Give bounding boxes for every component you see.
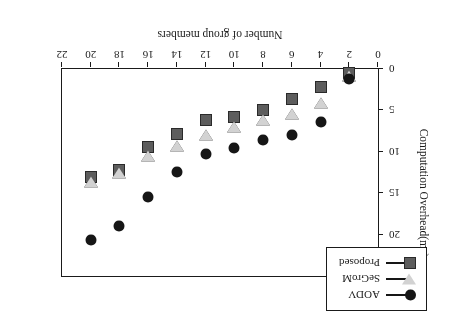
x-axis-tick-label: 22 — [57, 49, 68, 61]
y-axis-tick — [378, 109, 383, 110]
legend-item-segrom: SeGroM — [339, 271, 418, 287]
legend-label-aodv: AODV — [348, 289, 384, 301]
legend-label-proposed: Proposed — [339, 257, 384, 269]
x-axis-tick — [176, 62, 177, 67]
data-point — [314, 97, 328, 108]
y-axis-tick-label: 15 — [389, 187, 400, 199]
x-axis-tick-label: 0 — [375, 49, 381, 61]
data-point — [200, 114, 212, 126]
data-point — [315, 117, 326, 128]
x-axis-tick — [147, 62, 148, 67]
data-point — [171, 128, 183, 140]
x-axis-tick-label: 20 — [85, 49, 96, 61]
chart-legend: AODV SeGroM Proposed — [326, 247, 427, 311]
y-axis-tick-label: 10 — [389, 146, 400, 158]
legend-label-segrom: SeGroM — [342, 273, 384, 285]
data-point — [141, 150, 155, 161]
plot-frame: 02468101214161820220510152025 — [61, 68, 379, 277]
x-axis-tick-label: 16 — [143, 49, 154, 61]
chart-figure-root: 02468101214161820220510152025 Number of … — [0, 0, 451, 319]
data-point — [285, 108, 299, 119]
x-axis-tick-label: 6 — [289, 49, 295, 61]
y-axis-tick-label: 20 — [389, 229, 400, 241]
legend-item-proposed: Proposed — [339, 255, 418, 271]
data-point — [258, 135, 269, 146]
x-axis-tick-label: 8 — [260, 49, 266, 61]
x-axis-tick-label: 10 — [229, 49, 240, 61]
legend-marker-circle-icon — [384, 288, 418, 302]
x-axis-tick — [377, 62, 378, 67]
data-point — [200, 149, 211, 160]
data-point — [171, 167, 182, 178]
data-point — [286, 93, 298, 105]
y-axis-tick-label: 0 — [389, 63, 395, 75]
x-axis-tick — [118, 62, 119, 67]
y-axis-tick — [378, 151, 383, 152]
data-point — [256, 114, 270, 125]
y-axis-tick — [378, 192, 383, 193]
x-axis-tick-label: 4 — [318, 49, 324, 61]
x-axis-tick-label: 18 — [114, 49, 125, 61]
x-axis-tick-label: 14 — [171, 49, 182, 61]
data-point — [344, 73, 355, 84]
data-point — [286, 130, 297, 141]
x-axis-tick — [205, 62, 206, 67]
data-point — [227, 121, 241, 132]
x-axis-tick — [90, 62, 91, 67]
x-axis-title: Number of group members — [61, 29, 379, 41]
x-axis-tick — [61, 62, 62, 67]
x-axis-tick-label: 2 — [347, 49, 353, 61]
x-axis-tick — [262, 62, 263, 67]
x-axis-tick-label: 12 — [200, 49, 211, 61]
x-axis-tick — [320, 62, 321, 67]
data-point — [114, 221, 125, 232]
data-point — [84, 176, 98, 187]
data-point — [229, 142, 240, 153]
legend-marker-triangle-icon — [384, 272, 418, 286]
plot-area — [62, 69, 378, 276]
x-axis-tick — [233, 62, 234, 67]
y-axis-tick-label: 5 — [389, 104, 395, 116]
data-point — [199, 130, 213, 141]
rotated-figure-container: 02468101214161820220510152025 Number of … — [0, 0, 451, 319]
data-point — [315, 81, 327, 93]
legend-marker-square-icon — [384, 256, 418, 270]
data-point — [112, 168, 126, 179]
y-axis-tick — [378, 234, 383, 235]
data-point — [143, 191, 154, 202]
y-axis-tick — [378, 68, 383, 69]
legend-item-aodv: AODV — [339, 287, 418, 303]
x-axis-tick — [291, 62, 292, 67]
data-point — [85, 234, 96, 245]
x-axis-tick — [348, 62, 349, 67]
data-point — [170, 141, 184, 152]
